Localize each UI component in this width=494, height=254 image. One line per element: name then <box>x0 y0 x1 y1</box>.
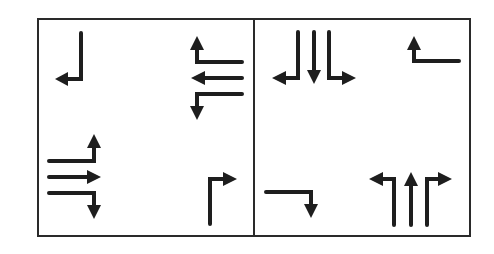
left-panel-eastbound-through-arrow-icon <box>49 170 101 184</box>
right-panel-northbound-through-arrow-icon <box>404 172 418 225</box>
left-panel-westbound-left-turn-arrow-icon <box>190 94 242 120</box>
right-panel-northbound-left-turn-arrow-icon <box>369 172 394 225</box>
left-panel-eastbound-left-turn-arrow-icon <box>49 134 101 161</box>
left-panel-southbound-right-turn-arrow-icon <box>55 33 81 86</box>
left-panel-westbound-right-turn-arrow-icon <box>190 36 242 62</box>
left-panel-eastbound-right-turn-arrow-icon <box>49 193 101 219</box>
lane-arrow-diagram <box>0 0 494 254</box>
left-panel-northbound-right-turn-arrow-icon <box>210 172 237 224</box>
right-panel-eastbound-right-turn-arrow-icon <box>266 192 318 218</box>
right-panel-westbound-right-turn-arrow-icon <box>407 36 459 61</box>
right-panel-southbound-left-turn-arrow-icon <box>329 32 356 85</box>
right-panel-northbound-right-turn-arrow-icon <box>427 172 452 225</box>
right-panel-southbound-through-arrow-icon <box>307 32 321 84</box>
right-panel-southbound-right-turn-arrow-icon <box>272 32 298 85</box>
left-panel-westbound-through-arrow-icon <box>191 71 242 85</box>
